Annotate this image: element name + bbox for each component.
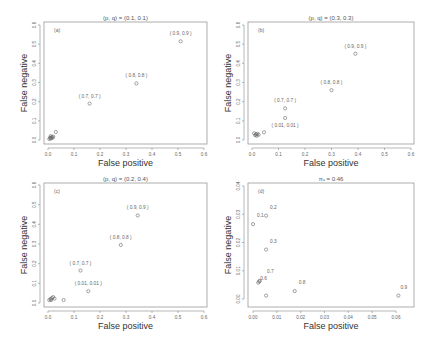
point-label: ( 0.01, 0.01 )	[75, 281, 103, 286]
y-axis-label: False negative	[19, 54, 29, 113]
x-axis-label: False positive	[98, 158, 153, 168]
x-axis-label: False positive	[303, 321, 358, 331]
x-tick-label: 0.6	[201, 152, 208, 157]
x-tick-label: 0.5	[381, 152, 388, 157]
x-tick-label: 0.0	[249, 152, 256, 157]
point-label: ( 0.9, 0.9 )	[127, 205, 149, 210]
panel-letter: (d)	[258, 188, 264, 194]
data-point	[119, 243, 122, 246]
data-point	[87, 290, 90, 293]
y-tick-label: 0.3	[32, 240, 37, 247]
y-tick-label: 0.5	[32, 201, 37, 208]
plot-area	[44, 22, 207, 144]
data-point	[265, 214, 268, 217]
x-tick-label: 0.3	[123, 152, 130, 157]
x-tick-label: 0.06	[392, 315, 401, 320]
y-tick-label: 0.4	[32, 60, 37, 67]
y-tick-label: 0.04	[236, 181, 241, 190]
panel-a: (p, q) = (0.1, 0.1)0.00.10.20.30.40.50.6…	[19, 15, 208, 168]
y-tick-label: 0.6	[32, 181, 37, 188]
point-label: 0.6	[260, 276, 267, 281]
panel-title: πₛ = 0.46	[319, 176, 344, 182]
point-label: 0.1	[257, 213, 264, 218]
point-label: ( 0.9, 0.9 )	[344, 44, 366, 49]
y-tick-label: 0.2	[236, 98, 241, 105]
data-point	[262, 131, 265, 134]
point-label: ( 0.7, 0.7 )	[70, 261, 92, 266]
x-tick-label: 0.2	[97, 315, 104, 320]
point-label: ( 0.8, 0.8 )	[321, 80, 343, 85]
data-point	[284, 116, 287, 119]
point-label: ( 0.8, 0.8 )	[125, 73, 147, 78]
panel-title: (p, q) = (0.2, 0.4)	[103, 176, 148, 182]
figure-grid: (p, q) = (0.1, 0.1)0.00.10.20.30.40.50.6…	[0, 0, 429, 343]
data-point	[330, 89, 333, 92]
data-point	[88, 102, 91, 105]
data-point	[54, 130, 57, 133]
x-tick-label: 0.3	[328, 152, 335, 157]
x-tick-label: 0.1	[275, 152, 282, 157]
y-tick-label: 0.1	[236, 117, 241, 124]
data-point	[135, 82, 138, 85]
y-tick-label: 0.0	[32, 299, 37, 306]
panel-letter: (a)	[54, 27, 60, 33]
panel-title: (p, q) = (0.3, 0.3)	[309, 15, 354, 21]
x-tick-label: 0.2	[97, 152, 104, 157]
point-label: ( 0.01, 0.01 )	[272, 123, 300, 128]
x-tick-label: 0.5	[175, 315, 182, 320]
y-tick-label: 0.5	[236, 41, 241, 48]
point-label: 0.3	[270, 239, 277, 244]
y-tick-label: 0.6	[236, 21, 241, 28]
x-tick-label: 0.05	[368, 315, 377, 320]
panel-d: πₛ = 0.460.000.010.020.030.040.050.060.0…	[223, 176, 414, 331]
point-label: 0.9	[400, 285, 407, 290]
data-point	[179, 40, 182, 43]
plot-area	[248, 183, 414, 307]
point-label: ( 0.8, 0.8 )	[110, 235, 132, 240]
point-label: 0.8	[299, 280, 306, 285]
panel-letter: (b)	[258, 27, 264, 33]
panel-title: (p, q) = (0.1, 0.1)	[103, 15, 148, 21]
plot-area	[44, 183, 207, 307]
y-tick-label: 0.00	[236, 294, 241, 303]
y-tick-label: 0.3	[32, 79, 37, 86]
y-tick-label: 0.0	[236, 136, 241, 143]
panel-b: (p, q) = (0.3, 0.3)0.00.10.20.30.40.50.6…	[223, 15, 415, 168]
x-tick-label: 0.2	[302, 152, 309, 157]
x-tick-label: 0.04	[344, 315, 353, 320]
x-tick-label: 0.4	[355, 152, 362, 157]
x-tick-label: 0.1	[71, 152, 78, 157]
x-tick-label: 0.0	[45, 152, 52, 157]
data-point	[79, 269, 82, 272]
y-tick-label: 0.02	[236, 238, 241, 247]
data-point	[293, 289, 296, 292]
panel-c: (p, q) = (0.2, 0.4)0.00.10.20.30.40.50.6…	[19, 176, 208, 331]
y-axis-label: False negative	[19, 216, 29, 275]
y-tick-label: 0.3	[236, 79, 241, 86]
x-axis-label: False positive	[98, 321, 153, 331]
x-tick-label: 0.5	[175, 152, 182, 157]
x-tick-label: 0.4	[149, 152, 156, 157]
data-point	[397, 294, 400, 297]
y-axis-label: False negative	[223, 216, 233, 275]
y-tick-label: 0.1	[32, 117, 37, 124]
point-label: 0.2	[270, 205, 277, 210]
data-point	[62, 298, 65, 301]
x-tick-label: 0.6	[408, 152, 415, 157]
y-tick-label: 0.01	[236, 266, 241, 275]
x-tick-label: 0.00	[249, 315, 258, 320]
point-label: 0.7	[267, 269, 274, 274]
x-tick-label: 0.01	[272, 315, 281, 320]
y-tick-label: 0.1	[32, 280, 37, 287]
point-label: ( 0.7, 0.7 )	[274, 98, 296, 103]
y-tick-label: 0.03	[236, 209, 241, 218]
x-tick-label: 0.03	[320, 315, 329, 320]
y-tick-label: 0.4	[236, 60, 241, 67]
x-tick-label: 0.02	[296, 315, 305, 320]
y-tick-label: 0.2	[32, 98, 37, 105]
x-tick-label: 0.4	[149, 315, 156, 320]
data-point	[354, 52, 357, 55]
data-point	[265, 248, 268, 251]
y-axis-label: False negative	[223, 54, 233, 113]
y-tick-label: 0.2	[32, 260, 37, 267]
